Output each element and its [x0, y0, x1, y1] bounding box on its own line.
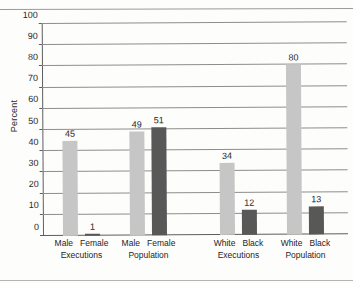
y-tick-mark	[39, 23, 42, 24]
gridlines	[42, 22, 347, 24]
y-tick-mark	[40, 235, 43, 236]
bar-value-label: 45	[65, 128, 75, 138]
y-tick-label: 30	[29, 158, 39, 168]
y-axis-title: Percent	[9, 86, 19, 146]
x-axis-group: MaleFemalePopulation	[109, 238, 189, 260]
plot-skew-wrapper: 0102030405060708090100 451495134128013	[42, 22, 348, 236]
bar: 51	[151, 127, 167, 235]
bar: 80	[286, 65, 302, 235]
x-axis-category-label: Black	[309, 238, 330, 248]
gridline	[42, 127, 347, 130]
y-tick-label: 50	[28, 116, 38, 126]
bar: 45	[62, 140, 78, 235]
bar-value-label: 80	[288, 53, 298, 63]
x-axis-group: WhiteBlackPopulation	[266, 238, 346, 260]
y-tick-mark	[39, 108, 42, 109]
bar-value-label: 12	[244, 197, 254, 207]
y-tick-label: 100	[23, 10, 38, 20]
gridline	[42, 64, 347, 67]
bar-value-label: 13	[311, 195, 321, 205]
x-axis-category-label: White	[281, 238, 303, 248]
y-tick-label: 80	[28, 52, 38, 62]
gridline	[42, 148, 347, 151]
x-axis-category-label: White	[214, 238, 236, 248]
bar-value-label: 49	[132, 120, 142, 130]
y-tick-label: 40	[28, 137, 38, 147]
y-tick-mark	[39, 150, 42, 151]
bar: 49	[129, 132, 145, 236]
x-axis-category-label: Black	[242, 238, 263, 248]
gridline	[42, 85, 347, 88]
plot-area: 0102030405060708090100 451495134128013	[43, 24, 348, 236]
y-tick-mark	[39, 87, 42, 88]
gridline	[42, 106, 347, 109]
y-tick-label: 10	[29, 200, 39, 210]
y-tick-mark	[40, 171, 43, 172]
y-tick-mark	[39, 65, 42, 66]
x-axis-category-label: Female	[147, 238, 175, 248]
y-tick-label: 70	[28, 73, 38, 83]
y-tick-label: 0	[34, 222, 39, 232]
bar-value-label: 1	[90, 222, 95, 232]
bar-value-label: 34	[222, 151, 232, 161]
y-tick-label: 60	[28, 94, 38, 104]
x-axis-labels: MaleFemaleExecutionsMaleFemalePopulation…	[43, 238, 348, 272]
bar-chart: Percent 0102030405060708090100 451495134…	[0, 11, 353, 283]
bar: 34	[220, 163, 235, 235]
x-axis-group-label: Population	[109, 250, 189, 260]
x-axis-category-pair: MaleFemale	[109, 238, 189, 248]
gridline	[43, 191, 348, 194]
bar: 12	[242, 209, 257, 235]
y-tick-mark	[40, 214, 43, 215]
gridline	[42, 21, 347, 24]
y-tick-label: 20	[29, 179, 39, 189]
x-axis-category-label: Male	[122, 238, 140, 248]
x-axis-group-label: Population	[266, 250, 346, 260]
y-tick-mark	[39, 129, 42, 130]
bar-value-label: 51	[154, 115, 164, 125]
gridline	[42, 42, 347, 45]
y-tick-mark	[39, 44, 42, 45]
gridline	[43, 170, 348, 173]
y-tick-label: 90	[28, 31, 38, 41]
figure-scan: Percent 0102030405060708090100 451495134…	[0, 0, 353, 283]
x-axis-category-label: Female	[80, 238, 108, 248]
x-axis-category-pair: WhiteBlack	[266, 238, 346, 248]
bottom-divider-rule	[0, 280, 353, 281]
x-axis-category-label: Male	[55, 238, 73, 248]
bar: 13	[309, 207, 324, 235]
y-tick-mark	[40, 193, 43, 194]
gridline	[43, 212, 348, 215]
bar: 1	[85, 234, 100, 236]
